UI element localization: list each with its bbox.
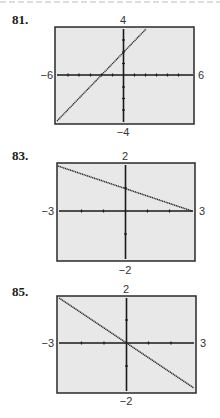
x-min-label: −3 bbox=[41, 205, 54, 217]
graph-85: 2 −2 −3 3 bbox=[0, 280, 220, 418]
y-min-label: −4 bbox=[117, 126, 130, 138]
problem-83: 83. 2 −2 −3 3 bbox=[0, 140, 220, 280]
y-min-label: −2 bbox=[120, 395, 133, 407]
graph-81: 4 −4 −6 6 bbox=[0, 0, 220, 140]
x-max-label: 6 bbox=[198, 69, 204, 81]
y-max-label: 2 bbox=[123, 283, 129, 295]
x-min-label: −3 bbox=[41, 337, 54, 349]
graph-83: 2 −2 −3 3 bbox=[0, 140, 220, 280]
y-min-label: −2 bbox=[119, 264, 132, 276]
x-max-label: 3 bbox=[199, 205, 205, 217]
x-max-label: 3 bbox=[200, 337, 206, 349]
x-min-label: −6 bbox=[40, 69, 53, 81]
problem-85: 85. 2 −2 −3 3 bbox=[0, 280, 220, 418]
y-max-label: 2 bbox=[122, 150, 128, 162]
problem-81: 81. 4 −4 −6 6 bbox=[0, 0, 220, 140]
y-max-label: 4 bbox=[120, 14, 126, 26]
